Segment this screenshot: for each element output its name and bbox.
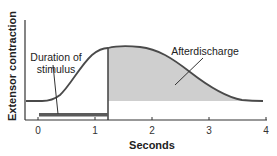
x-axis-title: Seconds	[129, 139, 175, 151]
x-tick-label-2: 2	[149, 125, 155, 136]
chart-canvas: 0 1 2 3 4 Seconds Extensor contraction D…	[0, 0, 277, 156]
x-tick-label-0: 0	[35, 125, 41, 136]
x-tick-label-4: 4	[263, 125, 269, 136]
afterdischarge-label: Afterdischarge	[171, 45, 239, 57]
x-tick-label-1: 1	[92, 125, 98, 136]
duration-label-line2: stimulus	[37, 63, 76, 75]
y-axis-title: Extensor contraction	[6, 11, 18, 121]
stimulus-bar	[39, 113, 108, 117]
x-tick-label-3: 3	[206, 125, 212, 136]
duration-label-line1: Duration of	[30, 51, 81, 63]
